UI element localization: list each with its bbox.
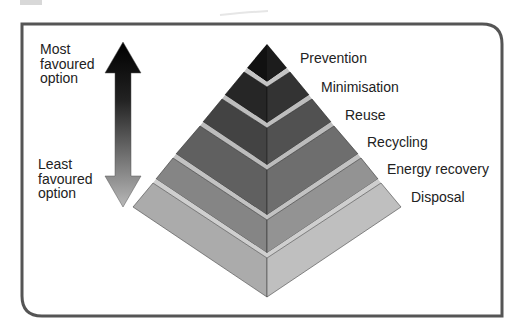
- tier-label-recycling: Recycling: [367, 135, 428, 150]
- least-favoured-line-1: Least: [38, 157, 92, 172]
- tier-label-prevention: Prevention: [300, 51, 367, 66]
- scan-artifact: [220, 11, 268, 15]
- tier-label-energy-recovery: Energy recovery: [387, 162, 489, 177]
- waste-hierarchy-diagram: Most favoured option Least favoured opti…: [0, 0, 528, 325]
- tier-label-disposal: Disposal: [411, 190, 465, 205]
- least-favoured-line-3: option: [38, 186, 92, 201]
- scan-artifact: [20, 0, 42, 5]
- most-favoured-line-3: option: [40, 71, 94, 86]
- preference-arrow-icon: [105, 42, 141, 207]
- least-favoured-label: Least favoured option: [38, 157, 92, 201]
- most-favoured-line-2: favoured: [40, 57, 94, 72]
- tier-label-minimisation: Minimisation: [321, 80, 399, 95]
- tier-label-reuse: Reuse: [345, 108, 385, 123]
- least-favoured-line-2: favoured: [38, 172, 92, 187]
- most-favoured-label: Most favoured option: [40, 42, 94, 86]
- most-favoured-line-1: Most: [40, 42, 94, 57]
